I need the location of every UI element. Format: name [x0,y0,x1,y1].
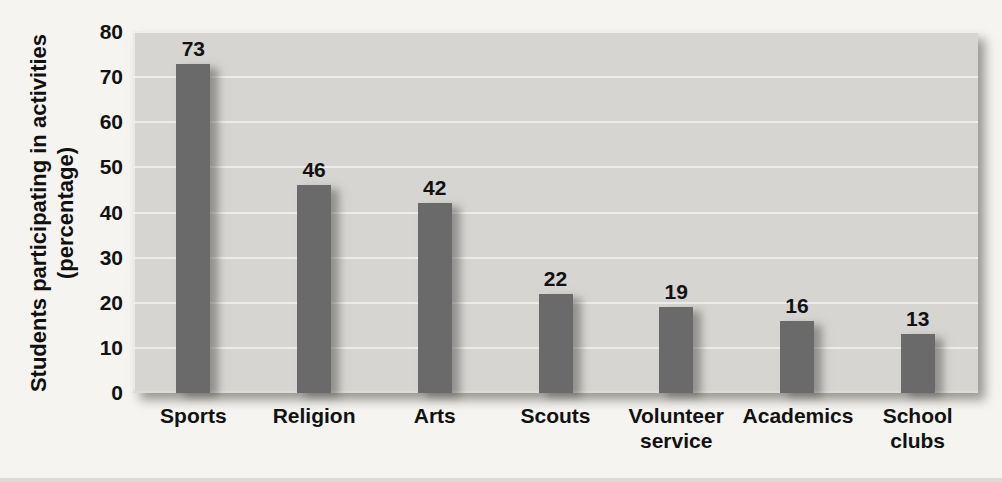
x-axis-label-arts: Arts [374,403,495,428]
bar-value-label-academics: 16 [737,295,858,317]
plot-area [133,32,978,393]
gridline-80 [133,31,978,33]
x-axis-label-sports: Sports [133,403,254,428]
bar-religion [297,185,331,393]
x-axis-label-volunteer-service: Volunteer service [616,403,737,453]
bar-value-label-arts: 42 [374,177,495,199]
y-tick-label-30: 30 [0,247,123,269]
bar-academics [780,321,814,393]
y-tick-label-40: 40 [0,202,123,224]
y-tick-label-70: 70 [0,66,123,88]
bar-scouts [539,294,573,393]
y-tick-label-10: 10 [0,337,123,359]
page-bottom-strip [0,478,1002,482]
bar-volunteer-service [659,307,693,393]
bar-sports [176,64,210,393]
gridline-30 [133,257,978,259]
y-tick-label-20: 20 [0,292,123,314]
y-tick-label-0: 0 [0,382,123,404]
x-axis-label-scouts: Scouts [495,403,616,428]
y-tick-label-60: 60 [0,111,123,133]
bar-arts [418,203,452,393]
bar-value-label-scouts: 22 [495,268,616,290]
y-tick-label-80: 80 [0,21,123,43]
bar-value-label-volunteer-service: 19 [616,281,737,303]
gridline-60 [133,121,978,123]
bar-chart-figure: Students participating in activities (pe… [0,0,1002,482]
x-axis-label-academics: Academics [737,403,858,428]
bar-school-clubs [901,334,935,393]
y-tick-label-50: 50 [0,156,123,178]
bar-value-label-school-clubs: 13 [857,308,978,330]
gridline-40 [133,212,978,214]
x-axis-label-school-clubs: School clubs [857,403,978,453]
x-axis-label-religion: Religion [254,403,375,428]
bar-value-label-sports: 73 [133,38,254,60]
bar-value-label-religion: 46 [254,159,375,181]
gridline-70 [133,76,978,78]
